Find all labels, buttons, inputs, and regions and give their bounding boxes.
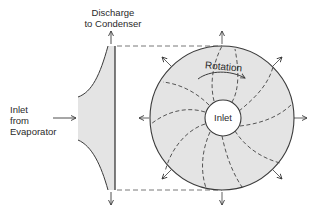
arrow-down-left-icon xyxy=(162,170,171,179)
inlet-center-label: Inlet xyxy=(205,112,241,123)
inlet-label-line1: Inlet xyxy=(10,104,56,115)
side-view-profile xyxy=(78,46,115,190)
inlet-label-line3: Evaporator xyxy=(10,126,56,137)
arrow-up-right-icon xyxy=(273,57,282,66)
arrow-down-right-icon xyxy=(273,170,282,179)
discharge-label-line1: Discharge xyxy=(80,7,146,18)
inlet-label-line2: from xyxy=(10,115,56,126)
inlet-from-evaporator-label: Inlet from Evaporator xyxy=(10,104,56,137)
discharge-label: Discharge to Condenser xyxy=(80,7,146,29)
discharge-label-line2: to Condenser xyxy=(80,18,146,29)
arrow-up-left-icon xyxy=(162,57,171,66)
